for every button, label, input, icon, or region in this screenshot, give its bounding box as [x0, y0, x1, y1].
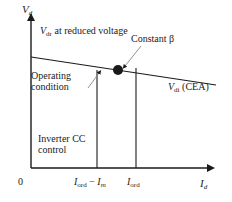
- y-axis-label: Vd: [22, 4, 32, 15]
- operating-condition-annotation: Operating condition: [31, 70, 97, 92]
- origin-label: 0: [18, 176, 23, 187]
- tick-sub1: ord: [77, 181, 86, 189]
- vdi-annotation: Vdi (CEA): [168, 81, 209, 92]
- vdr-subscript: dr: [46, 30, 52, 38]
- vdr-text: at reduced voltage: [52, 25, 128, 36]
- vdr-annotation: Vdr at reduced voltage: [40, 25, 132, 36]
- x-tick-label-ord: Iord: [127, 176, 140, 187]
- x-axis-label: Id: [200, 178, 207, 189]
- constant-beta-leader: [125, 46, 141, 66]
- vdi-text: (CEA): [180, 81, 209, 92]
- y-axis-subscript: d: [29, 9, 33, 17]
- x-axis-subscript: d: [204, 183, 208, 191]
- x-tick-label-ord-minus-m: Iord − Im: [74, 176, 106, 187]
- tick-sub2: m: [101, 181, 106, 189]
- tick-ord-sub: ord: [130, 181, 139, 189]
- vdi-subscript: di: [174, 86, 179, 94]
- constant-beta-annotation: Constant β: [131, 33, 174, 44]
- tick-minus: −: [87, 176, 98, 187]
- vi-characteristic-figure: Vd Id 0 Vdr at reduced voltage Constant …: [0, 0, 232, 202]
- operating-point-marker: [113, 65, 123, 75]
- inverter-cc-annotation: Inverter CC control: [38, 133, 108, 155]
- y-axis-symbol: V: [22, 3, 29, 15]
